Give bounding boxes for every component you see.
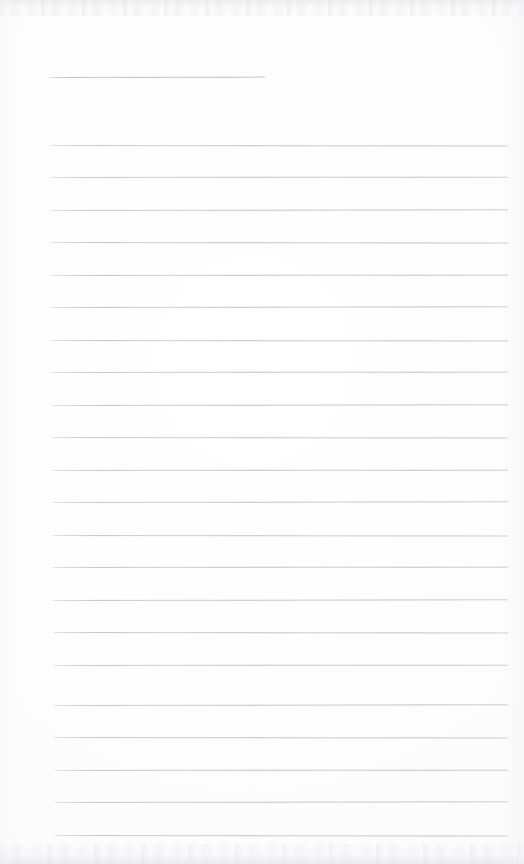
body-rule-6 [51,306,508,308]
body-rule-9 [52,404,508,406]
body-rule-12 [53,501,508,503]
body-rule-20 [55,770,508,771]
body-rule-18 [54,704,508,706]
body-rule-4 [51,242,508,243]
body-rule-14 [53,567,508,568]
body-rule-21 [55,801,508,803]
body-rule-2 [50,177,508,178]
body-rule-22 [55,835,508,836]
scan-artifact-left-edge [0,0,18,864]
scan-artifact-top-edge [0,0,524,16]
body-rule-17 [54,665,508,666]
header-rule [49,77,265,78]
body-rule-13 [53,535,508,536]
scanned-page [0,0,524,864]
body-rule-15 [53,599,508,601]
body-rule-3 [50,209,508,211]
body-rule-7 [51,340,508,341]
paper-background [0,0,524,864]
body-rule-1 [50,145,508,146]
body-rule-10 [52,437,508,438]
body-rule-16 [54,632,508,633]
body-rule-19 [54,737,508,738]
body-rule-8 [52,372,508,373]
scan-artifact-right-edge [502,0,524,864]
body-rule-5 [51,275,508,276]
body-rule-11 [52,470,508,471]
scan-artifact-bottom-edge [0,844,524,864]
